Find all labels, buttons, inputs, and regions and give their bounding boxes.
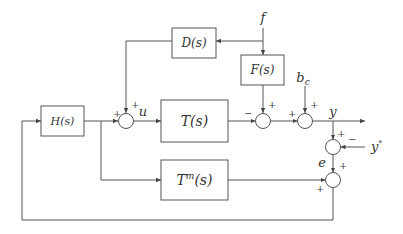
sum-junction-5 xyxy=(326,173,341,188)
label-F: F(s) xyxy=(250,63,275,77)
label-Tm: Tm(s) xyxy=(177,171,213,188)
label-H: H(s) xyxy=(50,115,75,128)
sign-sum3-top: + xyxy=(310,99,318,110)
label-ystar: y* xyxy=(370,139,382,154)
wire-H-to-Tm xyxy=(101,121,161,180)
label-e: e xyxy=(318,155,326,170)
label-bc: bc xyxy=(296,70,309,87)
sum-junction-3 xyxy=(298,114,313,129)
sum-junction-4 xyxy=(326,140,341,155)
sign-sum4-right: − xyxy=(348,134,356,145)
block-diagram: D(s) F(s) H(s) T(s) Tm(s) f u bc y y* e … xyxy=(0,0,403,234)
sign-sum1-top: + xyxy=(131,99,139,110)
sign-sum3-left: + xyxy=(288,108,296,119)
sign-sum4-top: + xyxy=(337,128,345,139)
sign-sum2-top: + xyxy=(268,99,276,110)
sign-sum1-left: + xyxy=(113,108,121,119)
label-u: u xyxy=(139,104,147,119)
sum-junction-2 xyxy=(256,114,271,129)
sign-sum2-left: − xyxy=(244,108,252,119)
label-f: f xyxy=(260,10,268,25)
sign-sum5-left: + xyxy=(316,183,324,194)
label-y: y xyxy=(328,104,337,119)
label-T: T(s) xyxy=(181,113,208,129)
label-D: D(s) xyxy=(180,36,206,50)
sign-sum5-top: + xyxy=(339,160,347,171)
